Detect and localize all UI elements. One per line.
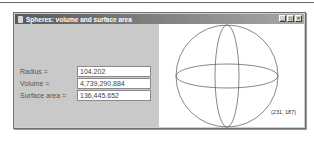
drawing-canvas[interactable]: (231, 187) (159, 24, 304, 127)
window-title: Spheres: volume and surface area (26, 16, 132, 23)
app-icon (18, 16, 23, 23)
sphere-equator (176, 64, 278, 88)
surface-area-row: Surface area = 136,445.652 (20, 90, 151, 101)
surface-area-label: Surface area = (20, 92, 77, 99)
window-controls: _ □ × (279, 15, 302, 22)
minimize-button[interactable]: _ (279, 15, 286, 22)
volume-field[interactable]: 4,739,290.884 (77, 78, 151, 89)
surface-area-field[interactable]: 136,445.652 (77, 90, 151, 101)
volume-label: Volume = (20, 80, 77, 87)
screen-top-edge (0, 2, 314, 3)
maximize-button[interactable]: □ (287, 15, 294, 22)
radius-label: Radius = (20, 68, 77, 75)
title-bar[interactable]: Spheres: volume and surface area _ □ × (15, 14, 304, 24)
sphere-outline (176, 25, 278, 127)
app-window: Spheres: volume and surface area _ □ × R… (13, 12, 306, 129)
sphere-meridian (215, 25, 239, 127)
input-panel: Radius = 104.202 Volume = 4,739,290.884 … (15, 24, 159, 127)
volume-row: Volume = 4,739,290.884 (20, 78, 151, 89)
radius-field[interactable]: 104.202 (77, 66, 151, 77)
mouse-coordinate-label: (231, 187) (271, 109, 296, 115)
radius-row: Radius = 104.202 (20, 66, 151, 77)
close-button[interactable]: × (295, 15, 302, 22)
